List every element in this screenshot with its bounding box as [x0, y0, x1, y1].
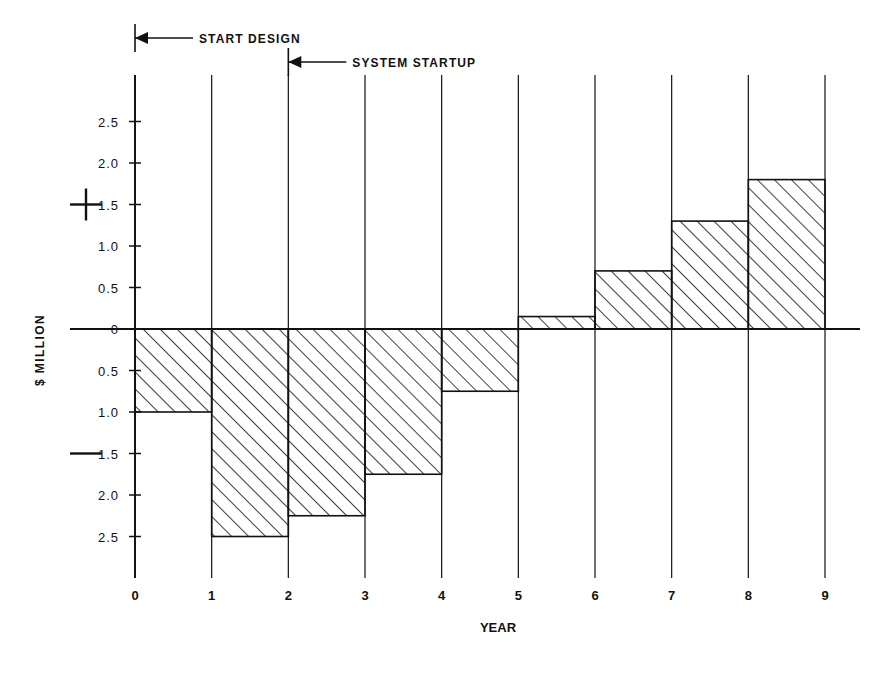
annotation-label: SYSTEM STARTUP — [352, 56, 476, 70]
y-tick-label: 0.5 — [98, 281, 119, 296]
bar-year-4-5 — [442, 329, 519, 391]
annotation-label: START DESIGN — [199, 32, 301, 46]
y-tick-label: 1.0 — [98, 405, 119, 420]
x-tick-label: 4 — [438, 588, 446, 603]
chart-figure: 2.52.01.51.00.500.51.01.52.02.5 01234567… — [0, 0, 889, 673]
y-tick-label: 2.0 — [98, 156, 119, 171]
x-tick-label: 6 — [591, 588, 598, 603]
x-tick-label: 5 — [515, 588, 522, 603]
bar-year-8-9 — [748, 180, 825, 329]
bar-year-0-1 — [135, 329, 212, 412]
bar-year-5-6 — [518, 317, 595, 329]
y-tick-label: 1.0 — [98, 239, 119, 254]
bar-year-1-2 — [212, 329, 289, 537]
bar-series — [135, 180, 825, 537]
x-tick-label: 0 — [131, 588, 138, 603]
bar-year-7-8 — [672, 221, 749, 329]
y-tick-label: 2.0 — [98, 488, 119, 503]
x-tick-label: 2 — [285, 588, 292, 603]
y-tick-label: 0.5 — [98, 364, 119, 379]
y-axis-title: $ MILLION — [33, 314, 47, 386]
y-tick-label: 2.5 — [98, 115, 119, 130]
callout-annotations: START DESIGNSYSTEM STARTUP — [135, 24, 476, 76]
x-tick-label: 1 — [208, 588, 215, 603]
arrow-left-icon — [288, 56, 301, 68]
bar-year-3-4 — [365, 329, 442, 474]
x-tick-label: 3 — [361, 588, 368, 603]
x-tick-label: 7 — [668, 588, 675, 603]
x-axis-title: YEAR — [480, 620, 517, 635]
bar-year-2-3 — [288, 329, 365, 516]
x-axis-tick-labels: 0123456789 — [131, 588, 828, 603]
cashflow-bar-chart: 2.52.01.51.00.500.51.01.52.02.5 01234567… — [0, 0, 889, 673]
x-tick-label: 9 — [821, 588, 828, 603]
bar-year-6-7 — [595, 271, 672, 329]
x-tick-label: 8 — [745, 588, 752, 603]
y-tick-label: 2.5 — [98, 530, 119, 545]
arrow-left-icon — [135, 32, 148, 44]
